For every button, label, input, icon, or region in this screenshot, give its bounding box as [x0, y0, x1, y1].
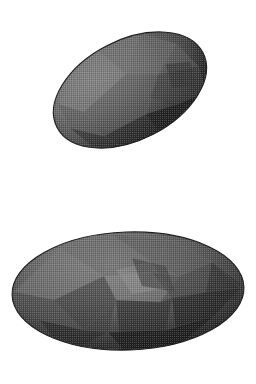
render-canvas — [0, 0, 256, 384]
caption-layer — [0, 0, 256, 384]
